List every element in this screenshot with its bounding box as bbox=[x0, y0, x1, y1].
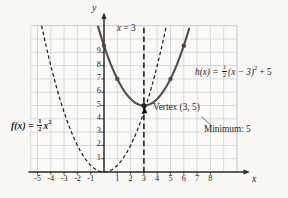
x-tick-label: 1 bbox=[110, 175, 124, 184]
f-fraction: 1 2 bbox=[37, 118, 42, 133]
h-fraction-denominator: 2 bbox=[222, 72, 227, 79]
x-tick-label: 2 bbox=[124, 175, 138, 184]
h-exponent: 2 bbox=[254, 64, 257, 71]
y-axis-arrow-icon bbox=[101, 13, 106, 20]
x-tick-label: 8 bbox=[203, 175, 217, 184]
y-tick-label: 4 bbox=[90, 114, 101, 123]
quadratic-transformation-figure: y x x = 3 h(x) = 1 2 (x − 3)2 + 5 f(x) =… bbox=[0, 0, 288, 198]
vertex-point bbox=[141, 103, 146, 108]
x-tick-label: 6 bbox=[177, 175, 191, 184]
y-tick-label: 2 bbox=[90, 140, 101, 149]
f-function-label: f(x) = 1 2 x2 bbox=[11, 118, 51, 133]
h-function-label: h(x) = 1 2 (x − 3)2 + 5 bbox=[195, 64, 272, 79]
x-axis-arrow-icon bbox=[244, 169, 251, 174]
y-tick-label: 3 bbox=[90, 127, 101, 136]
h-lhs: h(x) = bbox=[195, 67, 219, 77]
x3-var: x bbox=[117, 23, 121, 33]
x-tick-label: 7 bbox=[190, 175, 204, 184]
marked-point bbox=[182, 43, 186, 47]
y-tick-label: 8 bbox=[90, 61, 101, 70]
y-axis-label: y bbox=[92, 3, 96, 14]
x-tick-label: -2 bbox=[70, 175, 84, 184]
y-tick-label: 6 bbox=[90, 87, 101, 96]
y-tick-label: 7 bbox=[90, 74, 101, 83]
x-tick-label: 3 bbox=[137, 175, 151, 184]
axis-of-symmetry-annotation: x = 3 bbox=[117, 24, 136, 34]
marked-point bbox=[102, 43, 106, 47]
f-fraction-denominator: 2 bbox=[37, 126, 42, 133]
f-exponent: 2 bbox=[48, 118, 51, 125]
h-tail: + 5 bbox=[260, 67, 272, 77]
x-tick-label: -1 bbox=[84, 175, 98, 184]
x-tick-label: -4 bbox=[44, 175, 58, 184]
x3-eq: = 3 bbox=[123, 23, 135, 33]
plot-svg bbox=[0, 0, 288, 198]
x-tick-label: 4 bbox=[150, 175, 164, 184]
h-body: (x − 3) bbox=[228, 67, 254, 77]
marked-point bbox=[168, 77, 172, 81]
grid-area bbox=[31, 26, 237, 172]
vertex-annotation: Vertex (3, 5) bbox=[153, 103, 200, 113]
y-tick-label: 9 bbox=[90, 47, 101, 56]
x-tick-label: 5 bbox=[164, 175, 178, 184]
minimum-annotation: Minimum: 5 bbox=[204, 125, 251, 135]
h-fraction: 1 2 bbox=[222, 64, 227, 79]
x-tick-label: -3 bbox=[57, 175, 71, 184]
x-tick-label: -5 bbox=[31, 175, 45, 184]
x-axis-label: x bbox=[252, 174, 256, 185]
marked-point bbox=[115, 77, 119, 81]
f-lhs: f(x) = bbox=[11, 120, 34, 131]
y-tick-label: 1 bbox=[90, 154, 101, 163]
y-tick-label: 5 bbox=[90, 101, 101, 110]
